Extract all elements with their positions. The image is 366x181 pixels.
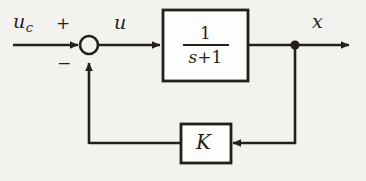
summing-junction-plus-sign: +	[56, 15, 70, 32]
reference-input-symbol: u	[13, 10, 25, 32]
denominator-constant: 1	[212, 47, 223, 67]
reference-input-label: uc	[13, 12, 33, 34]
reference-input-subscript: c	[26, 20, 33, 35]
transfer-function-numerator: 1	[200, 25, 211, 44]
branch-junction-dot	[290, 40, 299, 49]
plant-transfer-function: 1 s+1	[163, 10, 248, 81]
transfer-function-denominator: s+1	[189, 46, 223, 66]
output-signal-label: x	[312, 12, 323, 31]
block-diagram: uc + − u x 1 s+1 K	[0, 0, 366, 181]
control-signal-label: u	[114, 13, 126, 32]
summing-junction-circle	[80, 36, 98, 54]
denominator-operator: +	[197, 47, 211, 67]
summing-junction-minus-sign: −	[57, 55, 71, 72]
gain-block-label: K	[196, 132, 211, 152]
